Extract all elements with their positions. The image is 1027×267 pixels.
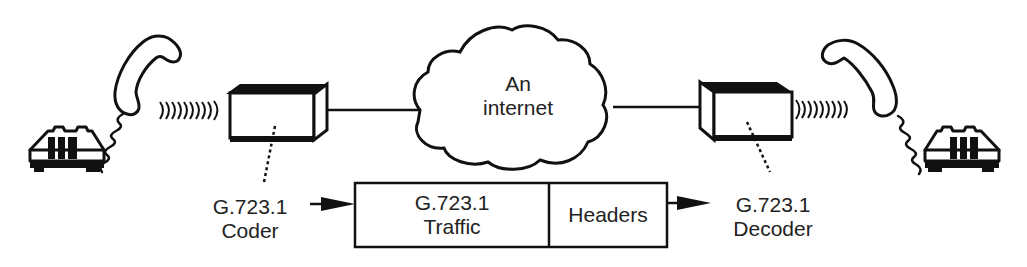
cloud-label-line2: internet bbox=[468, 96, 568, 120]
coder-label-line1: G.723.1 bbox=[200, 195, 300, 219]
coder-label-line2: Coder bbox=[200, 219, 300, 243]
arrow-packet-to-decoder bbox=[667, 196, 711, 210]
packet-payload-label: G.723.1 Traffic bbox=[355, 191, 549, 239]
packet-payload-line1: G.723.1 bbox=[355, 191, 549, 215]
left-telephone-icon bbox=[30, 36, 181, 172]
coder-box-icon bbox=[226, 84, 327, 142]
right-sound-waves-icon bbox=[796, 100, 847, 119]
left-sound-waves-icon bbox=[160, 101, 218, 120]
decoder-label-line2: Decoder bbox=[718, 217, 828, 241]
coder-label: G.723.1 Coder bbox=[200, 195, 300, 243]
arrow-coder-to-packet bbox=[310, 197, 355, 211]
packet-payload-line2: Traffic bbox=[355, 215, 549, 239]
decoder-box-icon bbox=[700, 82, 792, 141]
decoder-label-line1: G.723.1 bbox=[718, 193, 828, 217]
decoder-label: G.723.1 Decoder bbox=[718, 193, 828, 241]
cloud-label-line1: An bbox=[468, 72, 568, 96]
cloud-label: An internet bbox=[468, 72, 568, 120]
right-telephone-icon bbox=[822, 40, 999, 174]
packet-header-label: Headers bbox=[549, 203, 667, 227]
